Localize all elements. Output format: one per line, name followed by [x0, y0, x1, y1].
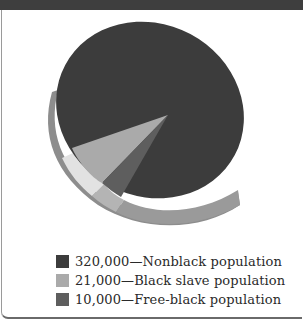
legend-label: 10,000—Free-black population: [75, 292, 281, 307]
legend-item-nonblack: 320,000—Nonblack population: [56, 252, 285, 271]
legend-label: 21,000—Black slave population: [75, 273, 285, 288]
legend-swatch: [56, 274, 69, 287]
legend-label: 320,000—Nonblack population: [75, 254, 282, 269]
chart-legend: 320,000—Nonblack population 21,000—Black…: [56, 252, 285, 309]
legend-swatch: [56, 293, 69, 306]
legend-item-black-slave: 21,000—Black slave population: [56, 271, 285, 290]
legend-swatch: [56, 255, 69, 268]
pie-chart: [0, 0, 303, 250]
legend-item-free-black: 10,000—Free-black population: [56, 290, 285, 309]
